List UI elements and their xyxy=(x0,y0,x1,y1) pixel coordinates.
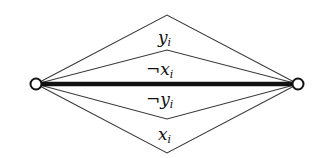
label-not-x-i: ¬xi xyxy=(146,59,173,81)
right-node xyxy=(293,79,304,90)
gadget-diagram: yi ¬xi ¬yi xi xyxy=(0,0,324,158)
diagram-svg: yi ¬xi ¬yi xi xyxy=(0,0,324,158)
label-y-i: yi xyxy=(157,27,171,49)
label-not-y-i: ¬yi xyxy=(146,89,173,111)
label-x-i: xi xyxy=(158,124,171,146)
left-node xyxy=(31,79,42,90)
